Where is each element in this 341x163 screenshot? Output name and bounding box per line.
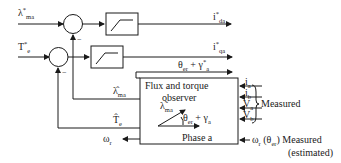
- torque-feedback-line: [58, 68, 140, 128]
- speed-input-estimated: (estimated): [288, 148, 333, 158]
- flux-ref-label: λ*ma: [18, 8, 34, 18]
- sub: ma: [165, 106, 173, 113]
- paren-end: ): [276, 134, 279, 145]
- flux-limiter-block: [106, 13, 138, 35]
- sub: a: [206, 65, 209, 72]
- iq-ref-label: i*qa: [213, 42, 225, 52]
- sub: r: [110, 139, 112, 146]
- torque-estimate-label: T̂e: [113, 115, 122, 125]
- observer-vector-label: λ̃ma: [160, 101, 173, 111]
- observer-title-line1: Flux and torque: [145, 80, 208, 91]
- measured-label: Measured: [261, 99, 300, 109]
- speed-output-label: ωr: [103, 134, 112, 144]
- sup: *: [216, 10, 219, 17]
- sub: da: [219, 17, 225, 24]
- sub: a: [208, 118, 211, 125]
- summer-flux: [64, 15, 83, 34]
- sup: *: [203, 58, 206, 65]
- sup: *: [24, 40, 27, 47]
- plus-gamma: + γ: [193, 112, 208, 123]
- symbol: ω: [252, 134, 259, 145]
- measured-text: Measured: [282, 134, 321, 145]
- id-ref-label: i*da: [213, 12, 225, 22]
- measured-input-vb: Vb: [243, 110, 253, 120]
- observer-phase-label: Phase a: [182, 132, 212, 143]
- sub: ma: [118, 91, 126, 98]
- minus-sign-flux: −: [77, 35, 82, 45]
- speed-input-label: ωr (θer) Measured: [252, 135, 322, 145]
- sup: *: [23, 6, 26, 13]
- sub: r: [259, 140, 261, 147]
- torque-limiter-block: [91, 46, 123, 68]
- sub: e: [27, 47, 30, 54]
- sub: ma: [26, 13, 34, 20]
- measured-input-ib: ib: [245, 88, 251, 98]
- minus-sign-torque: −: [62, 68, 67, 78]
- angle-output-label: θer + γ*a: [178, 60, 209, 70]
- sub: b: [250, 115, 253, 122]
- sup: *: [216, 40, 219, 47]
- sub: qa: [219, 47, 225, 54]
- sub: e: [119, 120, 122, 127]
- measured-input-ia: ia: [245, 77, 251, 87]
- summer-torque: [49, 48, 68, 67]
- observer-angle-label: θer + γa: [183, 113, 211, 123]
- symbol: ω: [103, 133, 110, 144]
- plus-gamma: + γ: [188, 59, 203, 70]
- flux-estimate-label: λ̂ma: [113, 86, 126, 96]
- torque-ref-label: T*e: [18, 42, 30, 52]
- measured-input-va: Va: [243, 99, 253, 109]
